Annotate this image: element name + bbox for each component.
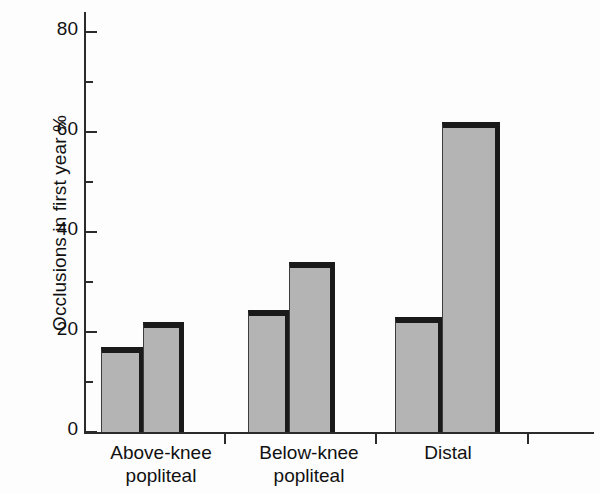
y-tick-label-60-wrap: 60 [26, 131, 78, 132]
x-axis-line [84, 432, 594, 434]
y-tick-label-80: 80 [34, 18, 78, 40]
bar-below-knee-popliteal-2 [289, 262, 335, 432]
bar-above-knee-popliteal-2 [143, 322, 184, 432]
bar-distal-1 [395, 317, 443, 432]
x-category-label-line-2: popliteal [86, 464, 236, 487]
y-tick-80 [86, 31, 97, 33]
x-category-label-line-2: popliteal [234, 464, 384, 487]
y-tick-minor-50 [86, 181, 93, 183]
x-category-label-below-knee-popliteal: Below-knee popliteal [234, 441, 384, 487]
y-tick-label-20: 20 [34, 318, 78, 340]
y-axis-line [84, 12, 86, 433]
y-tick-label-80-wrap: 80 [26, 31, 78, 32]
x-category-label-above-knee-popliteal: Above-knee popliteal [86, 441, 236, 487]
y-tick-minor-70 [86, 81, 93, 83]
y-tick-label-40-wrap: 40 [26, 231, 78, 232]
y-tick-label-0-wrap: 0 [26, 431, 78, 432]
bar-below-knee-popliteal-1 [248, 310, 290, 432]
bar-above-knee-popliteal-1 [101, 347, 144, 432]
y-tick-minor-10 [86, 381, 93, 383]
y-tick-60 [86, 131, 97, 133]
y-tick-label-0: 0 [34, 418, 78, 440]
x-tick-3 [527, 434, 529, 444]
bar-chart-figure: Occlusions in first year % 80 60 40 20 0… [0, 0, 600, 493]
x-category-label-distal: Distal [388, 441, 508, 464]
y-tick-label-60: 60 [34, 118, 78, 140]
y-tick-40 [86, 231, 97, 233]
y-tick-20 [86, 331, 97, 333]
y-tick-minor-30 [86, 281, 93, 283]
y-tick-0 [86, 431, 97, 433]
x-category-label-line-1: Distal [424, 442, 472, 463]
bar-distal-2 [442, 122, 500, 432]
y-tick-label-40: 40 [34, 218, 78, 240]
x-category-label-line-1: Above-knee [110, 442, 211, 463]
y-tick-label-20-wrap: 20 [26, 331, 78, 332]
x-category-label-line-1: Below-knee [259, 442, 358, 463]
